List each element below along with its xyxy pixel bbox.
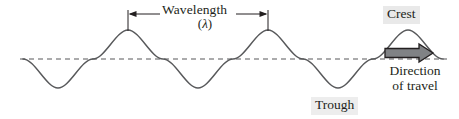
wave-diagram: Wavelength (λ) Crest Trough Direction of… [0,0,459,119]
wavelength-label: Wavelength [162,3,227,18]
wavelength-arrowhead-left [129,11,137,17]
trough-label: Trough [311,97,358,115]
wavelength-arrowhead-right [260,11,268,17]
wavelength-symbol-label: (λ) [190,17,220,31]
crest-label: Crest [383,6,420,24]
lambda-close-paren: ) [208,16,212,31]
direction-label-line2: of travel [378,79,452,94]
direction-of-travel-label: Direction of travel [378,64,452,93]
direction-label-line1: Direction [390,63,441,78]
